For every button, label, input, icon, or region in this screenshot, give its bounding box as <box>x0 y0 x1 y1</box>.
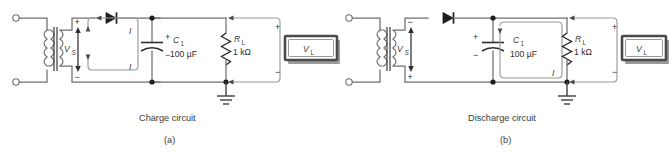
input-terminal-top-b <box>346 15 352 21</box>
node-bottom-a <box>149 79 154 84</box>
resistor-sublabel-a: L <box>242 39 246 46</box>
capacitor-minus-sign-b: − <box>473 50 478 60</box>
capacitor-sublabel-a: 1 <box>181 40 185 47</box>
load-voltage-box-b: V L <box>622 36 669 64</box>
input-terminal-bottom-a <box>13 79 19 85</box>
capacitor-b: + − C 1 100 µF <box>473 18 537 82</box>
capacitor-plus-sign-b: + <box>473 32 478 42</box>
sub-caption-b: (b) <box>500 135 511 145</box>
resistor-value-a: 1 kΩ <box>233 47 251 57</box>
load-sublabel-a: L <box>311 49 315 56</box>
capacitor-sublabel-b: 1 <box>521 40 525 47</box>
resistor-label-b: R <box>575 34 581 44</box>
source-plus-sign-a: + <box>75 17 80 27</box>
load-minus-sign-a: − <box>275 67 280 77</box>
source-arrow-up-a <box>75 27 81 33</box>
circuit-a-charge: + − V S I I + − <box>0 0 669 152</box>
source-sublabel-b: S <box>405 49 410 56</box>
source-plus-sign-b: + <box>408 72 413 82</box>
source-minus-sign-a: − <box>75 72 80 82</box>
loop-arrow-bottom-a <box>86 55 91 61</box>
capacitor-label-a: C <box>173 35 180 45</box>
current-label-bottom-b: I <box>552 68 555 78</box>
capacitor-value-b: 100 µF <box>510 49 537 59</box>
input-terminal-bottom-b <box>346 79 352 85</box>
resistor-sublabel-b: L <box>583 39 587 46</box>
load-minus-sign-b: − <box>612 67 617 77</box>
source-sublabel-a: S <box>72 49 77 56</box>
load-sublabel-b: L <box>644 49 648 56</box>
capacitor-a: + − C 1 100 µF <box>141 18 197 82</box>
ground-symbol-b <box>558 82 576 104</box>
resistor-a: R L 1 kΩ <box>222 18 252 82</box>
load-voltage-box-a: V L <box>285 36 340 64</box>
loop-arrow-down-b <box>498 29 503 35</box>
source-label-b: V <box>397 44 404 54</box>
resistor-label-a: R <box>234 34 240 44</box>
wire-primary-bottom-a <box>20 70 48 82</box>
resistor-value-b: 1 kΩ <box>574 47 592 57</box>
loop-arrow-top-a <box>86 26 91 32</box>
capacitor-plus-sign-a: + <box>165 32 170 42</box>
source-label-a: V <box>64 44 71 54</box>
circuit-figure: + − V S I I + − <box>0 0 669 152</box>
loop-arrow-left-a <box>96 16 102 21</box>
node-top-b <box>490 15 495 20</box>
load-arrow-top-b <box>569 16 575 21</box>
caption-a: Charge circuit <box>139 113 196 123</box>
resistor-b: R L 1 kΩ <box>563 18 593 82</box>
load-arrow-top-a <box>228 16 234 21</box>
wire-primary-top-a <box>20 18 48 30</box>
input-terminal-top-a <box>13 15 19 21</box>
wire-primary-top-b <box>353 18 381 30</box>
ground-symbol-a <box>217 82 235 104</box>
source-arrow-up-b <box>408 27 414 33</box>
capacitor-label-b: C <box>513 35 520 45</box>
load-arrow-bottom-a <box>228 80 234 85</box>
source-minus-sign-b: − <box>408 17 413 27</box>
wire-primary-bottom-b <box>353 70 381 82</box>
current-label-top-a: I <box>129 26 132 36</box>
load-plus-sign-a: + <box>275 22 280 32</box>
caption-b: Discharge circuit <box>468 113 536 123</box>
capacitor-value-a: 100 µF <box>170 49 197 59</box>
node-bottom-b <box>490 79 495 84</box>
sub-caption-a: (a) <box>164 135 175 145</box>
load-arrow-bottom-b <box>569 80 575 85</box>
load-plus-sign-b: + <box>612 22 617 32</box>
diode-b <box>443 12 493 23</box>
node-top-a <box>149 15 154 20</box>
